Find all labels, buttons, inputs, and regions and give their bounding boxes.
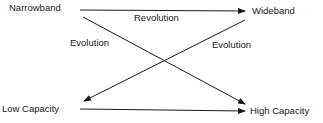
edge-label-evolution-left: Evolution [70,38,109,48]
arrow-wideband-to-low-capacity [84,20,245,101]
node-high-capacity: High Capacity [250,106,309,116]
edge-label-revolution: Revolution [134,13,179,23]
node-low-capacity: Low Capacity [2,104,59,114]
edge-label-evolution-right: Evolution [212,40,251,50]
node-wideband: Wideband [252,6,295,16]
arrow-narrowband-to-wideband [80,10,245,11]
node-narrowband: Narrowband [9,3,61,13]
arrow-low-capacity-to-high-capacity [80,109,245,111]
